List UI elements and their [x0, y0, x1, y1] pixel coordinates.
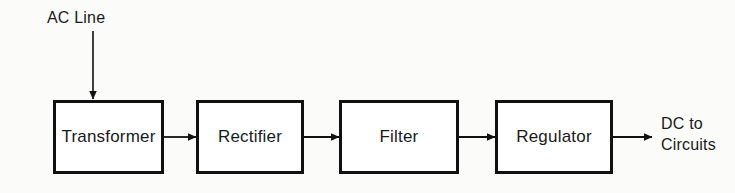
block-regulator-label: Regulator	[516, 127, 592, 147]
block-filter-label: Filter	[380, 127, 419, 147]
block-transformer-label: Transformer	[61, 127, 155, 147]
dc-output-label: DC to Circuits	[661, 113, 716, 155]
block-diagram: AC Line Transformer Rectifier Filter Reg…	[0, 0, 735, 193]
block-rectifier[interactable]: Rectifier	[196, 100, 304, 174]
block-transformer[interactable]: Transformer	[53, 100, 164, 174]
dc-output-label-line2: Circuits	[661, 134, 716, 155]
ac-line-input-label: AC Line	[47, 9, 105, 27]
block-regulator[interactable]: Regulator	[495, 100, 613, 174]
block-rectifier-label: Rectifier	[218, 127, 282, 147]
dc-output-label-line1: DC to	[661, 113, 716, 134]
block-filter[interactable]: Filter	[339, 100, 459, 174]
